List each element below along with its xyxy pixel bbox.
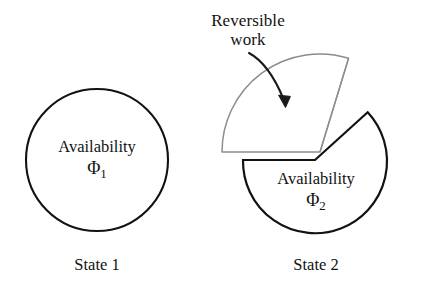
availability-diagram: Reversible work Availability Φ1 Availabi… [0, 0, 423, 292]
state1-caption: State 1 [27, 256, 167, 274]
state2-phi-symbol: Φ2 [246, 190, 386, 214]
reversible-work-annotation: Reversible work [178, 11, 318, 49]
state1-phi-glyph: Φ [87, 158, 100, 178]
state2-availability-text: Availability [277, 169, 355, 188]
state2-inner-label: Availability Φ2 [246, 170, 386, 214]
annotation-line-1: Reversible [211, 11, 285, 30]
state1-phi-symbol: Φ1 [27, 158, 167, 182]
annotation-line-2: work [230, 30, 265, 49]
state2-phi-subscript: 2 [319, 199, 325, 214]
state1-phi-subscript: 1 [100, 167, 106, 182]
state1-inner-label: Availability Φ1 [27, 138, 167, 182]
state1-availability-text: Availability [58, 137, 136, 156]
state2-phi-glyph: Φ [306, 190, 319, 210]
state2-caption: State 2 [246, 256, 386, 274]
